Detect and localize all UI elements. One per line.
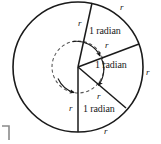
label-r-middle-radius: r [105, 41, 109, 50]
label-one-radian-middle: 1 radian [95, 60, 127, 70]
label-r-bottom-arc: r [104, 127, 108, 136]
label-r-bottom-left-radius: r [69, 104, 73, 113]
label-r-top-arc: r [120, 3, 124, 12]
label-one-radian-bottom: 1 radian [83, 104, 115, 114]
label-r-upper-radius: r [78, 19, 82, 28]
label-one-radian-top: 1 radian [89, 26, 121, 36]
radius-lower-right-line [78, 67, 126, 108]
label-r-lower-radius: r [97, 92, 101, 101]
radian-diagram-figure: 1 radian 1 radian 1 radian r r r r r r r [0, 0, 161, 144]
crop-corner-mark [2, 126, 9, 140]
label-r-right-arc: r [146, 68, 150, 77]
